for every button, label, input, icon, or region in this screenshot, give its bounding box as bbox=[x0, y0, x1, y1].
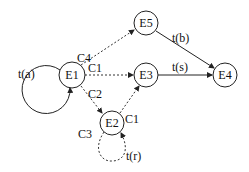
edge-label-c3: C3 bbox=[78, 127, 92, 141]
edge-label-ta: t(a) bbox=[18, 67, 35, 81]
edge-label-tb: t(b) bbox=[172, 31, 189, 45]
node-label-e4: E4 bbox=[218, 68, 231, 82]
edge-e3-e4: t(s) bbox=[158, 60, 212, 75]
node-label-e1: E1 bbox=[65, 68, 78, 82]
diagram-canvas: t(a) C4 C1 C2 C1 C3 t(r) t(b) t(s) E1 bbox=[0, 0, 249, 172]
node-e4: E4 bbox=[213, 63, 237, 87]
edge-e1-e5: C4 bbox=[77, 30, 134, 65]
node-e1: E1 bbox=[59, 62, 85, 88]
edge-label-c1-top: C1 bbox=[88, 61, 102, 75]
state-diagram: t(a) C4 C1 C2 C1 C3 t(r) t(b) t(s) E1 bbox=[0, 0, 249, 172]
node-e3: E3 bbox=[134, 63, 158, 87]
node-e2: E2 bbox=[100, 111, 124, 135]
edge-label-c1-e2: C1 bbox=[125, 112, 139, 126]
edge-label-ts: t(s) bbox=[172, 60, 188, 74]
node-label-e2: E2 bbox=[105, 116, 118, 130]
edge-label-tr: t(r) bbox=[126, 149, 141, 163]
node-e5: E5 bbox=[134, 11, 158, 35]
edge-label-c2: C2 bbox=[88, 87, 102, 101]
node-label-e5: E5 bbox=[139, 16, 152, 30]
node-label-e3: E3 bbox=[139, 68, 152, 82]
edge-e1-e3: C1 bbox=[85, 61, 133, 75]
edge-e1-e2: C2 bbox=[81, 86, 102, 113]
